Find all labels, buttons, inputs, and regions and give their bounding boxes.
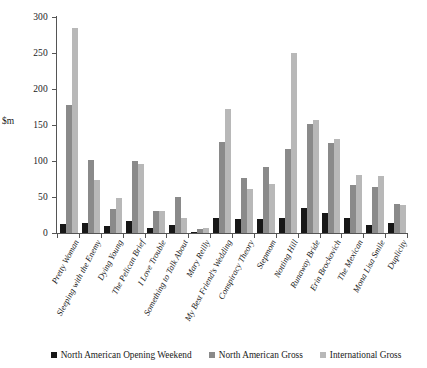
y-tick-label: 50 bbox=[14, 192, 48, 202]
legend-swatch-icon bbox=[320, 352, 326, 358]
y-tick-label: 0 bbox=[14, 228, 48, 238]
y-tick-label: 200 bbox=[14, 84, 48, 94]
bar bbox=[334, 139, 340, 233]
x-axis-label-text: Stepmom bbox=[254, 238, 278, 271]
legend-label: International Gross bbox=[330, 350, 402, 360]
bar-group bbox=[213, 17, 231, 233]
legend-swatch-icon bbox=[51, 352, 57, 358]
legend-item[interactable]: North American Gross bbox=[209, 350, 303, 360]
y-tick-label: 150 bbox=[14, 120, 48, 130]
chart-legend: North American Opening WeekendNorth Amer… bbox=[56, 350, 396, 360]
legend-label: North American Opening Weekend bbox=[61, 350, 192, 360]
legend-item[interactable]: International Gross bbox=[320, 350, 402, 360]
legend-label: North American Gross bbox=[219, 350, 303, 360]
x-axis-label-text: Duplicity bbox=[385, 238, 409, 271]
bar-chart: $m 050100150200250300 Pretty WomanSleepi… bbox=[0, 0, 427, 368]
legend-swatch-icon bbox=[209, 352, 215, 358]
legend-item[interactable]: North American Opening Weekend bbox=[51, 350, 192, 360]
bar bbox=[72, 28, 78, 233]
bar bbox=[291, 53, 297, 233]
y-tick-label: 300 bbox=[14, 12, 48, 22]
bar-group bbox=[279, 17, 297, 233]
y-tick-label: 250 bbox=[14, 48, 48, 58]
y-axis-title: $m bbox=[2, 116, 14, 126]
y-tick-label: 100 bbox=[14, 156, 48, 166]
x-tick-mark bbox=[57, 233, 58, 238]
bar-group bbox=[60, 17, 78, 233]
